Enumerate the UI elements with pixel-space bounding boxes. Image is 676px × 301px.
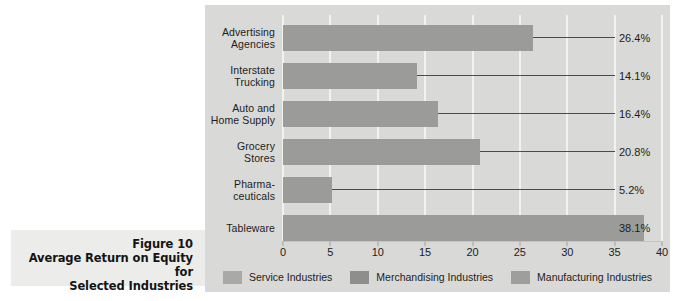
legend-swatch	[223, 271, 242, 284]
chart-row: Pharma-ceuticals5.2%	[205, 171, 670, 209]
bar	[283, 25, 533, 51]
figure-caption: Figure 10 Average Return on Equity for S…	[11, 230, 205, 286]
x-axis-tick-label: 30	[555, 246, 579, 258]
chart-row: GroceryStores20.8%	[205, 133, 670, 171]
legend-swatch	[350, 271, 369, 284]
category-label-line: Auto and	[232, 102, 275, 115]
category-label: Auto andHome Supply	[205, 95, 275, 133]
legend-item: Manufacturing Industries	[511, 271, 652, 284]
bar	[283, 177, 332, 203]
legend-label: Service Industries	[249, 271, 332, 283]
chart-row: AdvertisingAgencies26.4%	[205, 19, 670, 57]
chart-row: Tableware38.1%	[205, 209, 670, 247]
category-label-line: Grocery	[237, 140, 275, 153]
data-label-leader-line	[438, 113, 615, 114]
legend-swatch	[511, 271, 530, 284]
data-label: 16.4%	[619, 95, 669, 133]
bar	[283, 63, 417, 89]
chart-legend: Service IndustriesMerchandising Industri…	[205, 267, 670, 287]
data-label-leader-line	[417, 75, 615, 76]
legend-item: Service Industries	[223, 271, 332, 284]
category-label: GroceryStores	[205, 133, 275, 171]
bar	[283, 215, 644, 241]
category-label-line: Stores	[244, 152, 275, 165]
bar	[283, 101, 438, 127]
data-label: 5.2%	[619, 171, 669, 209]
x-axis-tick-label: 20	[461, 246, 485, 258]
category-label-line: Pharma-	[234, 178, 275, 191]
plot-area: 0510152025303540AdvertisingAgencies26.4%…	[205, 5, 670, 250]
data-label: 26.4%	[619, 19, 669, 57]
legend-label: Manufacturing Industries	[537, 271, 652, 283]
category-label-line: Tableware	[226, 222, 275, 235]
x-axis-tick-label: 15	[413, 246, 437, 258]
data-label: 20.8%	[619, 133, 669, 171]
x-axis-tick-label: 35	[603, 246, 627, 258]
figure-caption-line-3: Selected Industries	[17, 279, 193, 293]
category-label-line: Trucking	[234, 76, 275, 89]
data-label-leader-line	[332, 189, 615, 190]
chart-row: Auto andHome Supply16.4%	[205, 95, 670, 133]
data-label-leader-line	[533, 37, 615, 38]
category-label: InterstateTrucking	[205, 57, 275, 95]
category-label-line: Agencies	[231, 38, 275, 51]
category-label-line: ceuticals	[233, 190, 275, 203]
x-axis-tick-label: 5	[318, 246, 342, 258]
category-label: Pharma-ceuticals	[205, 171, 275, 209]
legend-label: Merchandising Industries	[376, 271, 493, 283]
figure-caption-line-2: Average Return on Equity for	[17, 251, 193, 279]
figure-panel: 0510152025303540AdvertisingAgencies26.4%…	[205, 5, 670, 292]
category-label: AdvertisingAgencies	[205, 19, 275, 57]
bar	[283, 139, 480, 165]
data-label-leader-line	[480, 151, 615, 152]
x-axis-tick-label: 0	[271, 246, 295, 258]
category-label-line: Home Supply	[211, 114, 275, 127]
x-axis-tick-label: 25	[508, 246, 532, 258]
x-axis-tick-label: 10	[366, 246, 390, 258]
legend-item: Merchandising Industries	[350, 271, 493, 284]
data-label: 38.1%	[619, 209, 669, 247]
data-label: 14.1%	[619, 57, 669, 95]
category-label: Tableware	[205, 209, 275, 247]
x-axis-tick-label: 40	[650, 246, 674, 258]
figure-caption-line-1: Figure 10	[17, 237, 193, 251]
category-label-line: Interstate	[230, 64, 275, 77]
chart-row: InterstateTrucking14.1%	[205, 57, 670, 95]
category-label-line: Advertising	[222, 26, 275, 39]
